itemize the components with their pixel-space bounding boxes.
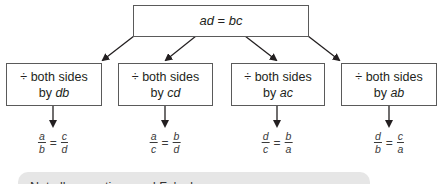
arrow-to-step-1: [103, 36, 134, 60]
denominator: c: [263, 143, 268, 154]
step-box-4: ÷ both sides by ab: [341, 63, 437, 106]
arrow-to-step-4: [308, 36, 339, 60]
numerator: c: [61, 131, 68, 143]
step-line1: ÷ both sides: [342, 69, 436, 85]
arrow-to-step-3: [245, 36, 276, 60]
denominator: d: [62, 143, 68, 154]
denominator: d: [174, 143, 180, 154]
numerator: c: [397, 131, 404, 143]
step-line1: ÷ both sides: [7, 69, 101, 85]
step-by: by: [151, 86, 168, 100]
step-by: by: [263, 86, 280, 100]
result-proportion-4: db = ca: [374, 131, 404, 154]
top-op: =: [218, 13, 226, 28]
step-line1: ÷ both sides: [232, 69, 324, 85]
note-callout: Not all proportions and Fo's d: [18, 172, 370, 184]
equals-sign: =: [273, 136, 280, 150]
top-equation-box: ad = bc: [133, 5, 309, 37]
result-proportion-1: ab = cd: [38, 131, 68, 154]
top-lhs: ad: [199, 13, 213, 28]
step-by: by: [39, 86, 56, 100]
step-by: by: [374, 86, 391, 100]
result-proportion-3: dc = ba: [262, 131, 293, 154]
numerator: a: [38, 131, 46, 143]
denominator: b: [39, 143, 45, 154]
step-divisor: ac: [280, 86, 293, 100]
numerator: a: [150, 131, 158, 143]
note-text: Not all proportions and Fo's d: [30, 180, 193, 184]
result-proportion-2: ac = bd: [150, 131, 181, 154]
numerator: b: [285, 131, 293, 143]
equals-sign: =: [386, 136, 393, 150]
denominator: b: [375, 143, 381, 154]
equals-sign: =: [50, 136, 57, 150]
denominator: a: [398, 143, 404, 154]
denominator: c: [151, 143, 156, 154]
step-line1: ÷ both sides: [119, 69, 212, 85]
step-divisor: db: [55, 86, 69, 100]
denominator: a: [286, 143, 292, 154]
numerator: d: [374, 131, 382, 143]
step-divisor: cd: [167, 86, 180, 100]
top-rhs: bc: [229, 13, 243, 28]
numerator: b: [173, 131, 181, 143]
step-box-3: ÷ both sides by ac: [231, 63, 325, 106]
numerator: d: [262, 131, 270, 143]
arrow-to-step-2: [166, 36, 196, 60]
step-box-2: ÷ both sides by cd: [118, 63, 213, 106]
equals-sign: =: [161, 136, 168, 150]
step-divisor: ab: [390, 86, 404, 100]
step-box-1: ÷ both sides by db: [6, 63, 102, 106]
